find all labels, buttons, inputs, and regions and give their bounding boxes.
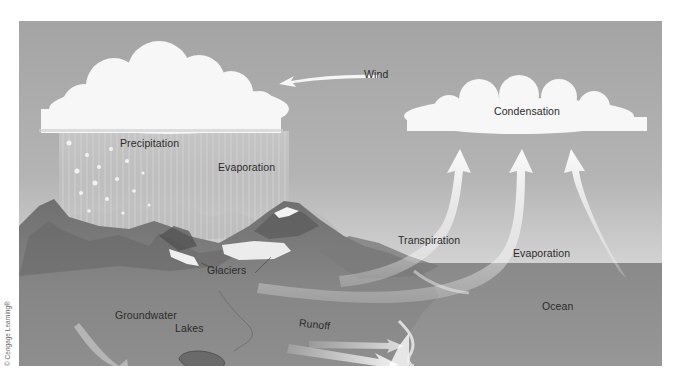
label-condensation: Condensation <box>494 105 560 117</box>
label-lakes: Lakes <box>175 322 204 334</box>
credit-text: © Cengage Learning® <box>4 301 11 366</box>
label-ocean: Ocean <box>542 300 573 312</box>
label-precipitation: Precipitation <box>120 137 179 149</box>
ocean-area <box>409 263 662 366</box>
label-groundwater: Groundwater <box>115 309 177 321</box>
cloud-base <box>39 129 283 132</box>
water-cycle-figure: Wind Condensation Precipitation Evaporat… <box>19 21 662 366</box>
label-evaporation-land: Evaporation <box>218 161 275 173</box>
label-evaporation-ocean: Evaporation <box>513 247 570 259</box>
label-wind: Wind <box>364 68 388 80</box>
label-transpiration: Transpiration <box>398 234 460 246</box>
label-glaciers: Glaciers <box>207 264 246 276</box>
copyright-credit: © Cengage Learning® <box>2 268 16 368</box>
